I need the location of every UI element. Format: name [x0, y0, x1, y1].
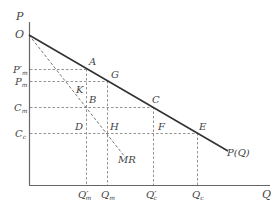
svg-text:Pm: Pm [14, 76, 28, 88]
marginal-revenue-line [29, 35, 125, 157]
point-e: E [198, 121, 207, 132]
vertical-guides [87, 69, 198, 185]
point-g: G [111, 69, 119, 80]
demand-curve-label: P(Q) [226, 147, 250, 158]
point-c: C [152, 94, 160, 105]
y-tick-labels: P′m Pm Cm Cc [12, 64, 28, 140]
svg-text:Qc: Qc [192, 189, 204, 201]
point-labels: A G K B C D H F E [74, 56, 207, 132]
y-axis-label: P [15, 10, 24, 23]
svg-text:Q′m: Q′m [78, 189, 91, 201]
origin-label: O [15, 28, 24, 41]
monopoly-pricing-diagram: P O Q P′m Pm Cm Cc Q′m Qm Q′c Qc A G K B… [0, 0, 279, 210]
x-tick-labels: Q′m Qm Q′c Qc [78, 189, 204, 201]
point-h: H [109, 121, 119, 132]
svg-text:Qm: Qm [101, 189, 115, 201]
point-a: A [88, 56, 96, 67]
svg-text:P′m: P′m [12, 64, 28, 76]
point-b: B [88, 94, 96, 105]
svg-text:Q′c: Q′c [146, 189, 157, 201]
point-d: D [74, 121, 83, 132]
x-axis-label: Q [262, 188, 271, 201]
point-k: K [75, 84, 84, 95]
point-f: F [157, 121, 166, 132]
svg-text:Cm: Cm [14, 102, 28, 114]
svg-text:Cc: Cc [15, 128, 27, 140]
mr-curve-label: MR [117, 154, 136, 165]
